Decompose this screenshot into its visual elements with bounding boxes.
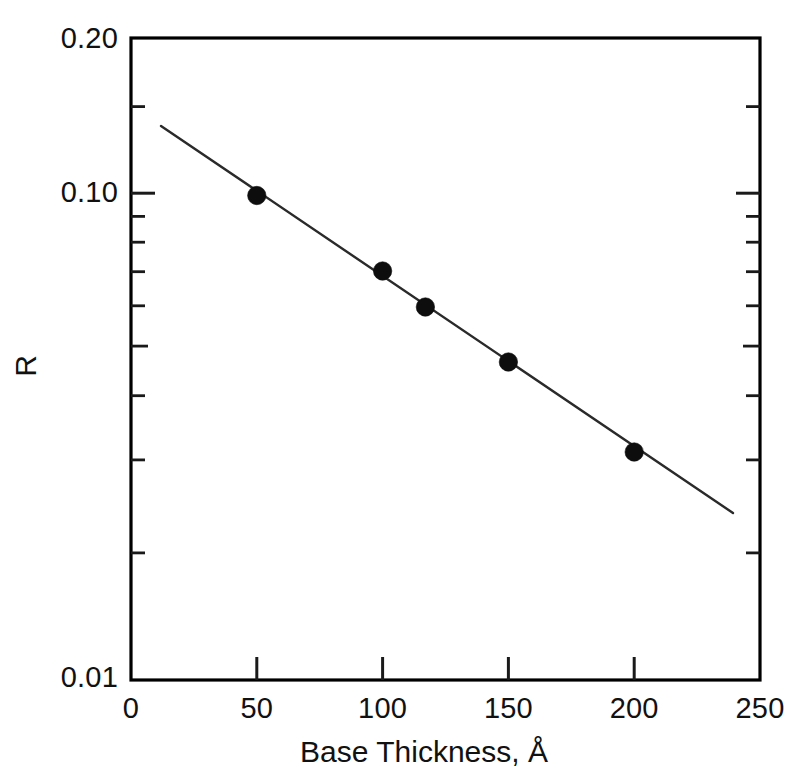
data-point	[248, 186, 266, 204]
x-axis-ticks	[257, 657, 634, 680]
x-axis-title: Base Thickness, Å	[300, 735, 548, 768]
x-tick-label-250: 250	[736, 692, 785, 724]
axis-frame	[131, 38, 760, 680]
x-tick-label-200: 200	[610, 692, 659, 724]
data-point	[499, 353, 517, 371]
data-point	[625, 443, 643, 461]
scatter-plot: 0.20 0.10 0.01 0 50 100 150 200 250 R Ba…	[0, 0, 805, 779]
x-tick-label-150: 150	[484, 692, 533, 724]
y-axis-title: R	[9, 355, 42, 377]
data-point	[416, 298, 434, 316]
data-point	[373, 262, 391, 280]
x-tick-label-0: 0	[123, 692, 139, 724]
y-tick-label-bottom: 0.01	[61, 661, 118, 693]
x-tick-label-100: 100	[358, 692, 407, 724]
data-points	[248, 186, 644, 461]
y-axis-minor-ticks	[131, 107, 760, 553]
figure-container: 0.20 0.10 0.01 0 50 100 150 200 250 R Ba…	[0, 0, 805, 779]
x-tick-label-50: 50	[240, 692, 273, 724]
y-tick-label-mid: 0.10	[61, 176, 118, 208]
regression-line	[161, 126, 733, 513]
y-tick-label-top: 0.20	[61, 22, 118, 54]
